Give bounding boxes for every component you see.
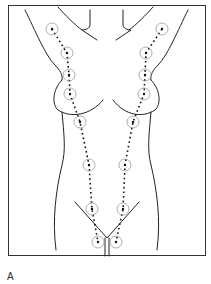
right-neck-outline — [116, 10, 131, 40]
body-outline — [25, 7, 188, 256]
right-breast-outline — [113, 80, 159, 115]
left-arm-outline — [25, 10, 62, 80]
right-shoulder-outline — [129, 7, 153, 30]
left-neck-outline — [82, 10, 97, 40]
right-lymph-chain — [110, 23, 168, 248]
panel-label: A — [7, 271, 14, 282]
diagram-frame — [9, 6, 206, 256]
left-shoulder-outline — [58, 7, 82, 30]
torso-diagram — [0, 0, 211, 284]
groin-outline — [75, 202, 139, 238]
left-flank-outline — [54, 112, 64, 250]
right-flank-outline — [149, 112, 159, 250]
right-arm-outline — [151, 10, 188, 80]
left-breast-outline — [54, 80, 103, 115]
left-dotted-line — [52, 29, 98, 242]
legs-gap-outline — [105, 238, 109, 256]
